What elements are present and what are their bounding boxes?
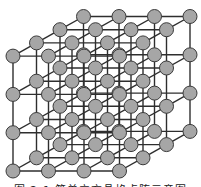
lattice-atom bbox=[77, 49, 91, 63]
figure-caption: 图 2-1 简单立方晶格点阵示意图 bbox=[0, 181, 201, 187]
lattice-atom bbox=[53, 99, 67, 113]
lattice-atom bbox=[160, 23, 174, 37]
lattice-atom bbox=[89, 99, 103, 113]
lattice-atom bbox=[77, 164, 91, 178]
lattice-atom bbox=[6, 164, 20, 178]
lattice-atom bbox=[124, 99, 138, 113]
lattice-atom bbox=[65, 113, 79, 127]
cubic-lattice-diagram bbox=[0, 0, 201, 187]
lattice-atom bbox=[30, 36, 44, 50]
lattice-atom bbox=[65, 74, 79, 88]
lattice-atom bbox=[30, 151, 44, 165]
lattice-atom bbox=[89, 61, 103, 75]
lattice-atom bbox=[124, 61, 138, 75]
lattice-atom bbox=[113, 87, 127, 101]
lattice-atom bbox=[77, 10, 91, 24]
lattice-atom bbox=[30, 74, 44, 88]
lattice-atom bbox=[101, 113, 115, 127]
lattice-atom bbox=[53, 61, 67, 75]
lattice-atom bbox=[112, 10, 126, 24]
lattice-atom bbox=[183, 124, 197, 138]
lattice-atom bbox=[101, 151, 115, 165]
lattice-atom bbox=[183, 10, 197, 24]
lattice-atom bbox=[30, 113, 44, 127]
lattice-atom bbox=[160, 61, 174, 75]
lattice-atom bbox=[89, 138, 103, 152]
lattice-atom bbox=[42, 164, 56, 178]
lattice-atom bbox=[42, 87, 56, 101]
lattice-atom bbox=[148, 86, 162, 100]
lattice-atom bbox=[42, 126, 56, 140]
lattice-atom bbox=[136, 151, 150, 165]
lattice-atom bbox=[101, 74, 115, 88]
lattice-atom bbox=[136, 74, 150, 88]
lattice-atom bbox=[89, 23, 103, 37]
lattice-atom bbox=[101, 36, 115, 50]
lattice-atom bbox=[148, 10, 162, 24]
lattice-atom bbox=[113, 126, 127, 140]
lattice-atom bbox=[53, 138, 67, 152]
lattice-atom bbox=[160, 138, 174, 152]
lattice-atom bbox=[124, 23, 138, 37]
lattice-atom bbox=[113, 49, 127, 63]
lattice-atom bbox=[6, 49, 20, 63]
lattice-atom bbox=[148, 124, 162, 138]
lattice-atom bbox=[6, 126, 20, 140]
lattice-atom bbox=[183, 48, 197, 62]
lattice-atom bbox=[77, 126, 91, 140]
lattice-atom bbox=[113, 164, 127, 178]
lattice-atom bbox=[65, 36, 79, 50]
lattice-atom bbox=[148, 48, 162, 62]
lattice-atom bbox=[53, 23, 67, 37]
lattice-atom bbox=[42, 49, 56, 63]
lattice-atom bbox=[136, 36, 150, 50]
lattice-atom bbox=[136, 113, 150, 127]
lattice-atom bbox=[6, 87, 20, 101]
lattice-atom bbox=[160, 99, 174, 113]
lattice-atom bbox=[183, 86, 197, 100]
lattice-atom bbox=[77, 87, 91, 101]
lattice-atom bbox=[124, 138, 138, 152]
lattice-atom bbox=[65, 151, 79, 165]
